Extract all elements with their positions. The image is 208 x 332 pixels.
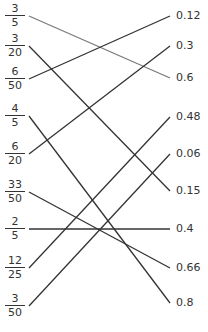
denominator: 5 [4, 16, 26, 28]
numerator: 3 [4, 293, 26, 305]
decimal-item[interactable]: 0.06 [176, 148, 201, 160]
denominator: 50 [4, 79, 26, 91]
decimal-item[interactable]: 0.6 [176, 72, 194, 84]
fraction-item[interactable]: 320 [4, 33, 26, 58]
fraction-item[interactable]: 25 [4, 216, 26, 241]
decimal-item[interactable]: 0.8 [176, 297, 194, 309]
fraction-item[interactable]: 350 [4, 293, 26, 318]
decimal-item[interactable]: 0.12 [176, 10, 201, 22]
decimal-item[interactable]: 0.3 [176, 40, 194, 52]
denominator: 5 [4, 229, 26, 241]
denominator: 20 [4, 46, 26, 58]
fraction-item[interactable]: 650 [4, 66, 26, 91]
denominator: 20 [4, 154, 26, 166]
numerator: 6 [4, 141, 26, 153]
connection-line [29, 117, 170, 268]
numerator: 2 [4, 216, 26, 228]
connection-line [29, 46, 170, 154]
denominator: 50 [4, 192, 26, 204]
denominator: 50 [4, 306, 26, 318]
decimal-item[interactable]: 0.66 [176, 262, 201, 274]
numerator: 4 [4, 103, 26, 115]
numerator: 6 [4, 66, 26, 78]
connection-line [29, 116, 170, 303]
decimal-item[interactable]: 0.4 [176, 223, 194, 235]
fraction-item[interactable]: 35 [4, 3, 26, 28]
connection-line [29, 46, 170, 191]
denominator: 5 [4, 116, 26, 128]
fraction-item[interactable]: 1225 [4, 255, 26, 280]
decimal-item[interactable]: 0.15 [176, 185, 201, 197]
fraction-item[interactable]: 45 [4, 103, 26, 128]
numerator: 3 [4, 33, 26, 45]
denominator: 25 [4, 268, 26, 280]
numerator: 33 [4, 179, 26, 191]
matching-diagram: 35320650456203350251225350 0.120.30.60.4… [0, 0, 208, 332]
fraction-item[interactable]: 620 [4, 141, 26, 166]
connection-line [29, 154, 170, 306]
decimal-item[interactable]: 0.48 [176, 111, 201, 123]
numerator: 12 [4, 255, 26, 267]
fraction-item[interactable]: 3350 [4, 179, 26, 204]
numerator: 3 [4, 3, 26, 15]
